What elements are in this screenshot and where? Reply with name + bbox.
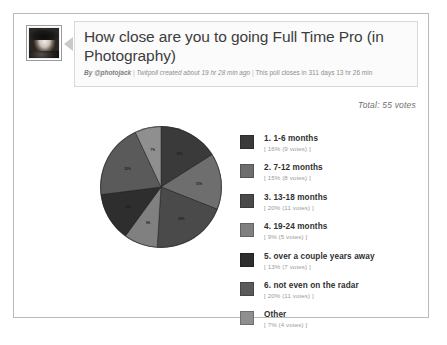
legend-item-label: 3. 13-18 months: [264, 193, 420, 203]
meta-closes: This poll closes in 311 days 13 hr 26 mi…: [255, 69, 372, 76]
poll-card: How close are you to going Full Time Pro…: [13, 13, 429, 318]
legend-color-swatch: [240, 194, 254, 208]
legend-item-label: 6. not even on the radar: [264, 281, 420, 291]
pie-slice-label: 9%: [146, 221, 151, 225]
pie-chart: 16%15%20%9%13%20%7%: [100, 126, 222, 248]
pie-slice-label: 13%: [125, 205, 131, 209]
page-title: How close are you to going Full Time Pro…: [84, 27, 409, 65]
legend-color-swatch: [240, 311, 254, 325]
legend-color-swatch: [240, 223, 254, 237]
legend-color-swatch: [240, 253, 254, 267]
legend: 1. 1-6 months[ 16% (9 votes) ]2. 7-12 mo…: [240, 134, 420, 340]
legend-item[interactable]: 5. over a couple years away[ 13% (7 vote…: [240, 252, 420, 273]
legend-item-label: 4. 19-24 months: [264, 222, 420, 232]
legend-item-label: 1. 1-6 months: [264, 134, 420, 144]
legend-item[interactable]: 3. 13-18 months[ 20% (11 votes) ]: [240, 193, 420, 214]
pie-slice-label: 7%: [150, 148, 155, 152]
legend-item[interactable]: Other[ 7% (4 votes) ]: [240, 310, 420, 331]
meta-by-prefix: By: [84, 69, 94, 76]
legend-item-votes: [ 9% (5 votes) ]: [264, 233, 420, 241]
legend-color-swatch: [240, 164, 254, 178]
avatar[interactable]: [26, 25, 62, 61]
legend-item-votes: [ 20% (11 votes) ]: [264, 204, 420, 212]
callout-arrow-icon: [64, 37, 73, 51]
legend-item[interactable]: 1. 1-6 months[ 16% (9 votes) ]: [240, 134, 420, 155]
legend-item[interactable]: 4. 19-24 months[ 9% (5 votes) ]: [240, 222, 420, 243]
legend-item-label: 5. over a couple years away: [264, 252, 420, 262]
meta-created: Twitpoll created about 19 hr 28 min ago: [136, 69, 250, 76]
poll-meta: By @photojack | Twitpoll created about 1…: [84, 68, 409, 77]
legend-item-votes: [ 20% (11 votes) ]: [264, 292, 420, 300]
legend-item-votes: [ 13% (7 votes) ]: [264, 263, 420, 271]
avatar-photo: [29, 28, 59, 58]
pie-slice-label: 15%: [196, 182, 202, 186]
pie-canvas: 16%15%20%9%13%20%7%: [100, 126, 222, 248]
total-votes-label: Total: 55 votes: [358, 100, 416, 110]
legend-item-votes: [ 7% (4 votes) ]: [264, 321, 420, 329]
poll-header: How close are you to going Full Time Pro…: [26, 21, 418, 89]
legend-item-label: Other: [264, 310, 420, 320]
legend-item[interactable]: 6. not even on the radar[ 20% (11 votes)…: [240, 281, 420, 302]
legend-color-swatch: [240, 135, 254, 149]
results-area: 16%15%20%9%13%20%7% 1. 1-6 months[ 16% (…: [14, 114, 428, 317]
meta-author[interactable]: @photojack: [94, 69, 131, 76]
pie-svg: 16%15%20%9%13%20%7%: [100, 126, 222, 248]
question-box: How close are you to going Full Time Pro…: [74, 21, 418, 87]
pie-slice-label: 20%: [178, 217, 184, 221]
legend-item-votes: [ 15% (8 votes) ]: [264, 174, 420, 182]
legend-color-swatch: [240, 282, 254, 296]
legend-item[interactable]: 2. 7-12 months[ 15% (8 votes) ]: [240, 163, 420, 184]
pie-slice-label: 20%: [125, 167, 131, 171]
pie-slice-label: 16%: [176, 152, 182, 156]
legend-item-votes: [ 16% (9 votes) ]: [264, 145, 420, 153]
legend-item-label: 2. 7-12 months: [264, 163, 420, 173]
